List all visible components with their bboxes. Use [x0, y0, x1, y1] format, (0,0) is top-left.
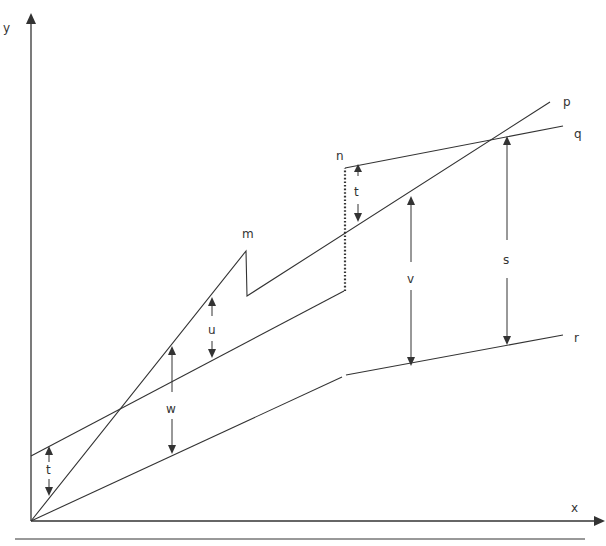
axes: y x [3, 13, 605, 526]
curve-r [31, 335, 563, 521]
arrow-up-icon [45, 446, 53, 455]
measure-v: v [407, 196, 415, 366]
svg-text:w: w [166, 402, 176, 416]
measure-s: s [503, 136, 511, 345]
svg-text:t: t [354, 185, 359, 199]
point-m-label: m [242, 227, 254, 241]
x-axis-label: x [571, 501, 578, 515]
arrow-down-icon [168, 445, 176, 454]
arrow-down-icon [503, 336, 511, 345]
curve-q [31, 126, 563, 456]
svg-text:v: v [407, 272, 414, 286]
arrow-up-icon [208, 297, 216, 306]
economic-diagram: y x p q r m n t u w [0, 0, 606, 546]
arrow-up-icon [407, 196, 415, 205]
curve-r-label: r [574, 331, 579, 345]
point-n-label: n [336, 149, 344, 163]
y-axis-label: y [3, 21, 10, 35]
curve-q-label: q [574, 127, 582, 141]
svg-text:s: s [503, 253, 509, 267]
arrow-down-icon [407, 357, 415, 366]
curve-p [31, 102, 550, 521]
curve-p-label: p [563, 95, 571, 109]
measure-u: u [208, 297, 216, 358]
y-axis-arrow-icon [26, 13, 36, 24]
svg-text:u: u [208, 323, 216, 337]
arrow-down-icon [354, 213, 362, 222]
measure-t-right: t [354, 164, 362, 222]
arrow-down-icon [208, 349, 216, 358]
measure-w: w [166, 346, 176, 454]
x-axis-arrow-icon [594, 516, 605, 526]
measure-t-left: t [45, 446, 53, 496]
svg-text:t: t [46, 463, 51, 477]
